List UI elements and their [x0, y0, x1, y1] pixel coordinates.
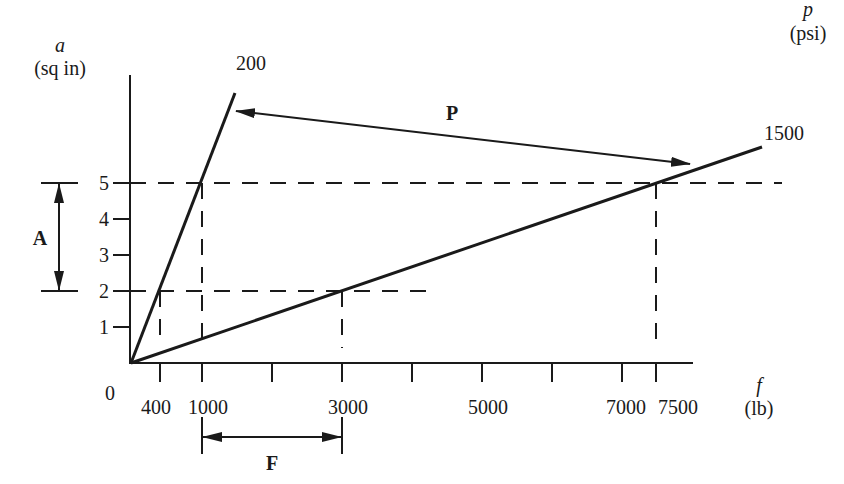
svg-text:2: 2 — [99, 280, 109, 302]
line-200-label: 200 — [236, 52, 266, 74]
arrow-P — [236, 111, 690, 164]
svg-text:1: 1 — [99, 316, 109, 338]
svg-text:5000: 5000 — [468, 396, 508, 418]
line-1500psi — [131, 147, 762, 363]
x-ticks — [160, 363, 656, 382]
diagram-canvas: a (sq in) p (psi) 200 1500 P A F 1 2 3 4… — [0, 0, 844, 484]
y-ticks — [113, 183, 130, 327]
x-tick-labels: 400 1000 3000 5000 7000 7500 — [141, 396, 698, 418]
line-200psi — [131, 93, 235, 363]
svg-text:7500: 7500 — [658, 396, 698, 418]
y-axis-unit: (sq in) — [34, 57, 86, 80]
arrow-A-label: A — [33, 227, 48, 249]
svg-text:3: 3 — [99, 244, 109, 266]
arrow-F-label: F — [266, 452, 278, 474]
arrow-F-group — [202, 417, 342, 454]
dashed-guides — [130, 183, 782, 348]
axes — [129, 75, 693, 364]
x-axis-variable: f — [756, 374, 764, 397]
svg-text:5: 5 — [99, 172, 109, 194]
line-1500-label: 1500 — [764, 122, 804, 144]
x-axis-unit: (lb) — [745, 397, 774, 420]
origin-label: 0 — [105, 382, 115, 404]
right-axis-unit: (psi) — [790, 22, 827, 45]
pressure-lines — [131, 93, 762, 363]
svg-text:7000: 7000 — [606, 396, 646, 418]
svg-text:4: 4 — [99, 208, 109, 230]
svg-text:400: 400 — [141, 396, 171, 418]
y-axis-variable: a — [55, 34, 65, 56]
svg-text:3000: 3000 — [328, 396, 368, 418]
right-axis-variable: p — [801, 0, 813, 21]
arrow-P-label: P — [446, 102, 458, 124]
y-tick-labels: 1 2 3 4 5 — [99, 172, 109, 338]
svg-text:1000: 1000 — [188, 396, 228, 418]
